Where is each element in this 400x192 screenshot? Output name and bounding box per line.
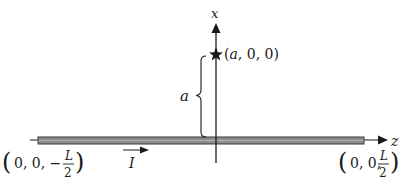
z-axis-arrowhead xyxy=(378,136,388,145)
z-axis-label: z xyxy=(390,133,399,149)
distance-label: a xyxy=(180,87,189,105)
left-paren-open: ( xyxy=(2,148,11,176)
left-end-denominator: 2 xyxy=(64,166,72,180)
point-label: (a, 0, 0) xyxy=(224,46,279,62)
left-end-numerator: L xyxy=(64,149,73,163)
left-end-coords: 0, 0, − xyxy=(14,155,61,171)
right-paren-close: ) xyxy=(390,148,399,176)
right-end-denominator: 2 xyxy=(379,166,387,180)
current-label: I xyxy=(128,155,135,171)
left-paren-close: ) xyxy=(75,148,84,176)
right-end-coords: 0, 0, xyxy=(350,155,381,171)
right-paren-open: ( xyxy=(338,148,347,176)
right-end-label: ( 0, 0, L 2 ) xyxy=(338,148,399,180)
distance-brace xyxy=(196,56,206,137)
x-axis-arrowhead xyxy=(212,23,221,33)
right-end-numerator: L xyxy=(379,149,388,163)
left-end-label: ( 0, 0, − L 2 ) xyxy=(2,148,84,180)
current-arrowhead xyxy=(140,147,149,154)
wire-field-diagram: z x (a, 0, 0) a I ( 0, 0, − L 2 ) ( 0, 0… xyxy=(0,0,400,192)
x-axis-label: x xyxy=(211,6,219,21)
